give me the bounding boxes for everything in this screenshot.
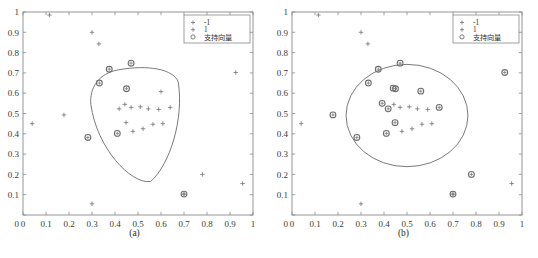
scatter-plot-a: 00.10.20.30.40.50.60.70.80.910.10.20.30.… (0, 0, 269, 232)
subplot-label-a: (a) (0, 228, 269, 238)
y-tick-label: 0.9 (8, 28, 20, 38)
legend: -11支持向量 (453, 15, 519, 43)
legend: -11支持向量 (184, 15, 250, 43)
legend-label: 支持向量 (204, 33, 232, 42)
y-tick-label: 0.7 (8, 68, 20, 78)
panel-a: 00.10.20.30.40.50.60.70.80.910.10.20.30.… (0, 0, 269, 258)
y-tick-label: 0.4 (277, 129, 289, 139)
y-tick-label: 0.3 (8, 149, 20, 159)
scatter-plot-b: 00.10.20.30.40.50.60.70.80.910.10.20.30.… (269, 0, 538, 232)
y-tick-label: 1 (284, 7, 289, 17)
panel-b: 00.10.20.30.40.50.60.70.80.910.10.20.30.… (269, 0, 538, 258)
y-tick-label: 0.1 (8, 190, 19, 200)
series-support-vector (85, 60, 187, 197)
series-class-points (392, 102, 434, 133)
series-support-vector (330, 60, 508, 197)
y-tick-label: 0.1 (277, 190, 288, 200)
y-tick-label: 0.6 (277, 88, 289, 98)
y-tick-label: 0.8 (277, 48, 289, 58)
y-tick-label: 0.2 (277, 170, 288, 180)
y-tick-label: 0.5 (277, 109, 289, 119)
y-tick-label: 0.5 (8, 109, 20, 119)
decision-boundary (91, 68, 180, 182)
y-tick-label: 0.9 (277, 28, 289, 38)
y-tick-label: 0.6 (8, 88, 20, 98)
y-tick-label: 0.7 (277, 68, 289, 78)
subplot-label-b: (b) (269, 228, 538, 238)
y-tick-label: 0.4 (8, 129, 20, 139)
y-tick-label: 0.8 (8, 48, 20, 58)
y-tick-label: 0.3 (277, 149, 289, 159)
figure-container: 00.10.20.30.40.50.60.70.80.910.10.20.30.… (0, 0, 538, 258)
y-tick-label: 0.2 (8, 170, 19, 180)
series-class-points (117, 102, 172, 133)
y-tick-label: 1 (15, 7, 20, 17)
decision-boundary (346, 64, 468, 166)
legend-label: 支持向量 (473, 33, 501, 42)
